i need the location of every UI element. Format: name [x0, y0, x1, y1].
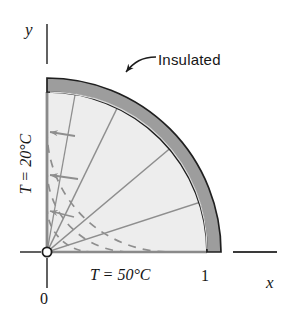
left-boundary-condition-label: T = 20°C	[18, 112, 34, 216]
y-axis-label: y	[25, 21, 33, 38]
bottom-boundary-condition-label: T = 50°C	[90, 267, 150, 283]
insulated-boundary-label: Insulated	[158, 52, 221, 67]
origin-marker	[42, 247, 51, 256]
origin-label: 0	[40, 291, 48, 307]
x-axis-tick-label-1: 1	[201, 268, 209, 284]
x-axis-label: x	[266, 274, 274, 291]
insulated-callout-leader	[126, 57, 156, 72]
